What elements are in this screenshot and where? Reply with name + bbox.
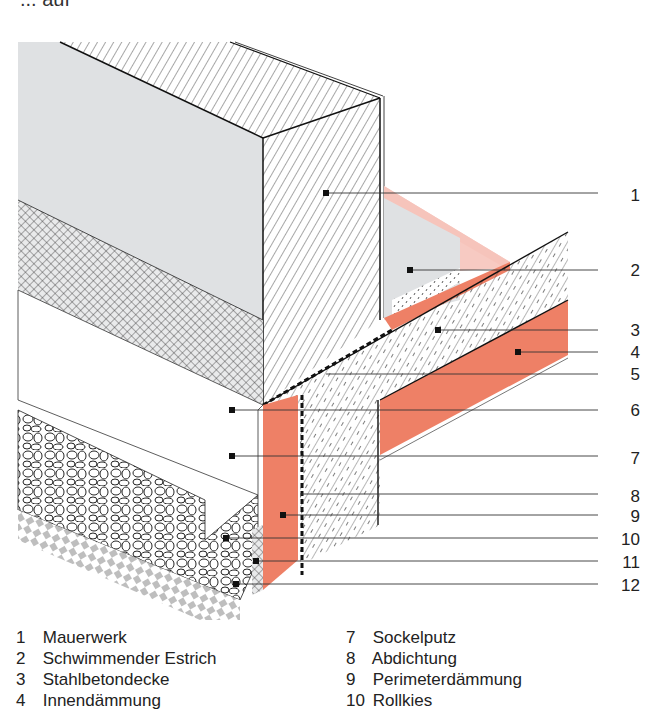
callout-number-9: 9 xyxy=(610,507,640,527)
legend-column-2: 7 Sockelputz 8 Abdichtung 9 Perimeterdäm… xyxy=(346,627,522,711)
callout-number-7: 7 xyxy=(610,449,640,469)
callout-number-6: 6 xyxy=(610,401,640,421)
callout-number-12: 12 xyxy=(610,576,640,596)
legend-item: 10 Rollkies xyxy=(346,690,522,711)
legend-item: 9 Perimeterdämmung xyxy=(346,669,522,690)
legend-item: 8 Abdichtung xyxy=(346,648,522,669)
legend-item: 2 Schwimmender Estrich xyxy=(16,648,217,669)
callout-number-4: 4 xyxy=(610,343,640,363)
callout-number-10: 10 xyxy=(610,530,640,550)
callout-number-3: 3 xyxy=(610,321,640,341)
callout-number-1: 1 xyxy=(610,186,640,206)
construction-detail-diagram xyxy=(0,0,659,620)
callout-number-11: 11 xyxy=(610,553,640,573)
legend-item: 3 Stahlbetondecke xyxy=(16,669,217,690)
legend-item: 1 Mauerwerk xyxy=(16,627,217,648)
legend-item: 7 Sockelputz xyxy=(346,627,522,648)
legend-item: 4 Innendämmung xyxy=(16,690,217,711)
callout-number-5: 5 xyxy=(610,365,640,385)
callout-number-8: 8 xyxy=(610,487,640,507)
legend-column-1: 1 Mauerwerk 2 Schwimmender Estrich 3 Sta… xyxy=(16,627,217,711)
callout-number-2: 2 xyxy=(610,261,640,281)
